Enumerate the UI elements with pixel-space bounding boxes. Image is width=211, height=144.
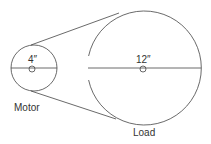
belt-lower bbox=[31, 91, 116, 119]
belt-upper bbox=[31, 13, 119, 45]
motor-hub bbox=[29, 66, 35, 72]
load-diameter-label: 12″ bbox=[136, 55, 151, 65]
motor-diameter-label: 4″ bbox=[28, 55, 37, 65]
load-label: Load bbox=[133, 128, 155, 138]
motor-label: Motor bbox=[14, 103, 40, 113]
load-hub bbox=[140, 66, 146, 72]
belt-drive-diagram bbox=[0, 0, 211, 144]
